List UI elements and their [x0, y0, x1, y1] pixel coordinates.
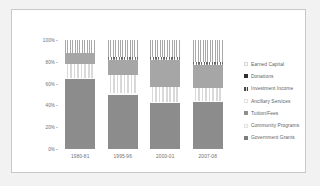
y-axis-tick-mark: [56, 127, 58, 128]
y-axis-tick-label: 0%: [48, 147, 55, 152]
legend-swatch-icon: [244, 111, 248, 115]
bar-segment-inv[interactable]: [150, 60, 180, 87]
bar-segment-earn[interactable]: [193, 40, 223, 62]
bar-segment-earn[interactable]: [150, 40, 180, 57]
legend-item-label: Government Grants: [251, 135, 295, 140]
legend-swatch-icon: [244, 62, 248, 66]
bar-segment-inv[interactable]: [108, 60, 138, 75]
legend-item-label: Community Programs: [251, 123, 299, 128]
y-axis-tick-mark: [56, 62, 58, 63]
y-axis-tick-mark: [56, 40, 58, 41]
legend-item-earn[interactable]: Earned Capital: [244, 58, 318, 70]
bar-column[interactable]: 2000-01: [150, 40, 180, 149]
bar-segment-earn[interactable]: [65, 40, 95, 53]
y-axis-tick-mark: [56, 105, 58, 106]
legend-item-label: Earned Capital: [251, 62, 284, 67]
bar-segment-inv[interactable]: [193, 65, 223, 88]
legend-item-label: Tuition/Fees: [251, 111, 278, 116]
y-axis-tick-label: 60%: [46, 81, 56, 86]
bar-segment-tuit[interactable]: [65, 64, 95, 78]
bar-segment-inv[interactable]: [65, 53, 95, 64]
bar-column[interactable]: 1980-81: [65, 40, 95, 149]
y-axis-tick-mark: [56, 84, 58, 85]
legend-swatch-icon: [244, 124, 248, 128]
legend-item-comm[interactable]: Community Programs: [244, 119, 318, 131]
legend-item-anc[interactable]: Ancillary Services: [244, 95, 318, 107]
bar-segment-gov[interactable]: [150, 103, 180, 149]
bar-segment-tuit[interactable]: [150, 87, 180, 102]
x-axis-label: 1980-81: [57, 154, 103, 159]
bar-segment-gov[interactable]: [108, 95, 138, 150]
chart-card: 0%20%40%60%80%100%1980-811995-962000-012…: [11, 9, 306, 173]
chart-page: 0%20%40%60%80%100%1980-811995-962000-012…: [0, 0, 320, 186]
bar-segment-gov[interactable]: [65, 79, 95, 149]
bar-column[interactable]: 1995-96: [108, 40, 138, 149]
bar-segment-gov[interactable]: [193, 102, 223, 149]
chart-legend: Earned CapitalDonationsInvestment Income…: [244, 58, 318, 144]
y-axis-tick-label: 80%: [46, 59, 56, 64]
legend-swatch-icon: [244, 136, 248, 140]
legend-swatch-icon: [244, 74, 248, 78]
bar-segment-tuit[interactable]: [193, 88, 223, 101]
legend-item-don[interactable]: Donations: [244, 70, 318, 82]
plot-area: 0%20%40%60%80%100%1980-811995-962000-012…: [59, 40, 229, 149]
y-axis-tick-label: 40%: [46, 103, 56, 108]
x-axis-label: 2007-08: [185, 154, 231, 159]
x-axis-label: 1995-96: [100, 154, 146, 159]
legend-item-gov[interactable]: Government Grants: [244, 132, 318, 144]
legend-item-tuit[interactable]: Tuition/Fees: [244, 107, 318, 119]
legend-swatch-icon: [244, 87, 248, 91]
y-axis-tick-mark: [56, 149, 58, 150]
y-axis-tick-label: 20%: [46, 125, 56, 130]
legend-item-label: Donations: [251, 74, 273, 79]
legend-item-label: Investment Income: [251, 86, 293, 91]
legend-item-inv[interactable]: Investment Income: [244, 83, 318, 95]
bar-segment-tuit[interactable]: [108, 75, 138, 94]
x-axis-label: 2000-01: [142, 154, 188, 159]
bar-column[interactable]: 2007-08: [193, 40, 223, 149]
y-axis-tick-label: 100%: [43, 38, 55, 43]
legend-item-label: Ancillary Services: [251, 99, 291, 104]
legend-swatch-icon: [244, 99, 248, 103]
bar-segment-earn[interactable]: [108, 40, 138, 57]
